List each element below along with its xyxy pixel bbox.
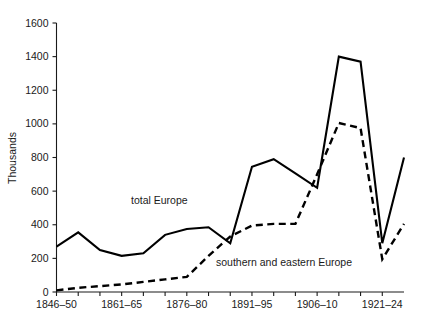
y-tick-label: 600: [31, 185, 49, 197]
series-annotation-southern-eastern-europe: southern and eastern Europe: [216, 256, 352, 268]
y-axis-title: Thousands: [6, 132, 18, 184]
x-tick-label: 1906–10: [297, 298, 338, 310]
x-tick-label: 1846–50: [36, 298, 77, 310]
emigration-line-chart: 02004006008001000120014001600 1846–50186…: [0, 0, 428, 324]
series-annotation-total-europe: total Europe: [131, 194, 188, 206]
y-tick-label: 400: [31, 218, 49, 230]
y-tick-label: 200: [31, 252, 49, 264]
x-tick-label: 1921–24: [362, 298, 403, 310]
y-tick-label: 1600: [25, 17, 49, 29]
y-tick-label: 1000: [25, 117, 49, 129]
y-tick-label: 800: [31, 151, 49, 163]
chart-container: 02004006008001000120014001600 1846–50186…: [0, 0, 428, 324]
x-tick-label: 1876–80: [166, 298, 207, 310]
y-tick-label: 1400: [25, 50, 49, 62]
x-tick-label: 1891–95: [232, 298, 273, 310]
x-tick-label: 1861–65: [101, 298, 142, 310]
chart-background: [0, 0, 428, 324]
y-tick-label: 0: [43, 286, 49, 298]
y-tick-label: 1200: [25, 84, 49, 96]
